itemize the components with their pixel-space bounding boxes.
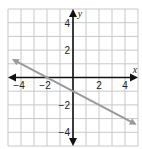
axes xyxy=(8,9,138,146)
x-tick-label: 4 xyxy=(122,80,128,91)
data-line xyxy=(12,59,137,125)
x-tick-label: −4 xyxy=(13,80,25,91)
y-tick-label: 4 xyxy=(64,18,70,29)
x-tick-label: 2 xyxy=(96,80,102,91)
x-tick-label: −2 xyxy=(39,80,51,91)
coordinate-plane: −4−22442−2−4xy xyxy=(0,0,142,149)
x-axis-right-arrow-icon xyxy=(130,74,138,82)
y-axis-up-arrow-icon xyxy=(69,9,77,17)
y-tick-label: −2 xyxy=(59,100,71,111)
y-tick-label: −4 xyxy=(59,127,71,138)
y-axis-label: y xyxy=(77,8,83,19)
y-axis-down-arrow-icon xyxy=(69,138,77,146)
y-tick-label: 2 xyxy=(64,45,70,56)
x-axis-label: x xyxy=(132,64,138,75)
